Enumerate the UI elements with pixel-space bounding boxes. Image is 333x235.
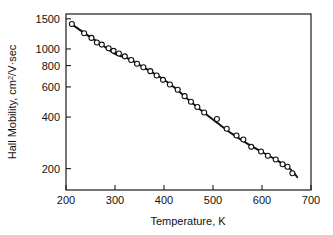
data-point	[154, 73, 159, 78]
data-point	[135, 61, 140, 66]
x-tick-label: 600	[253, 194, 271, 206]
y-tick-label: 1500	[36, 13, 60, 25]
data-point	[99, 42, 104, 47]
x-tick-label: 500	[204, 194, 222, 206]
data-point	[280, 162, 285, 167]
x-axis-title: Temperature, K	[150, 215, 226, 227]
data-point	[106, 46, 111, 51]
data-point	[94, 40, 99, 45]
data-point	[202, 110, 207, 115]
y-tick-label: 1000	[36, 43, 60, 55]
data-point	[141, 65, 146, 70]
data-point	[265, 153, 270, 158]
y-axis-title: Hall Mobility, cm2/V·sec	[6, 44, 19, 159]
data-point	[82, 31, 87, 36]
data-point	[129, 57, 134, 62]
data-point	[69, 21, 74, 26]
data-point	[224, 126, 229, 131]
x-tick-label: 200	[57, 194, 75, 206]
data-point	[195, 105, 200, 110]
data-point	[249, 144, 254, 149]
data-point	[285, 164, 290, 169]
data-point	[259, 149, 264, 154]
chart-figure: 200300400500600700 20040060080010001500 …	[0, 0, 333, 235]
y-axis-title-after: /V·sec	[6, 44, 18, 76]
y-tick-label: 800	[42, 60, 60, 72]
x-tick-label: 300	[106, 194, 124, 206]
hall-mobility-vs-temperature-chart: 200300400500600700 20040060080010001500 …	[0, 0, 333, 235]
data-point	[148, 69, 153, 74]
y-tick-label: 200	[42, 163, 60, 175]
data-point	[241, 137, 246, 142]
data-point	[188, 99, 193, 104]
data-point	[122, 54, 127, 59]
data-point	[167, 82, 172, 87]
y-tick-label: 400	[42, 111, 60, 123]
y-axis-title-before: Hall Mobility, cm	[6, 80, 18, 159]
data-point	[175, 87, 180, 92]
data-point	[89, 35, 94, 40]
data-point	[214, 116, 219, 121]
x-tick-label: 400	[155, 194, 173, 206]
data-point	[161, 77, 166, 82]
data-point	[273, 157, 278, 162]
x-tick-label: 700	[302, 194, 320, 206]
data-point	[111, 48, 116, 53]
svg-text:Hall Mobility, cm2/V·sec: Hall Mobility, cm2/V·sec	[6, 44, 19, 159]
data-point	[116, 51, 121, 56]
data-point	[290, 171, 295, 176]
data-point	[182, 94, 187, 99]
y-tick-label: 600	[42, 81, 60, 93]
data-point	[234, 133, 239, 138]
